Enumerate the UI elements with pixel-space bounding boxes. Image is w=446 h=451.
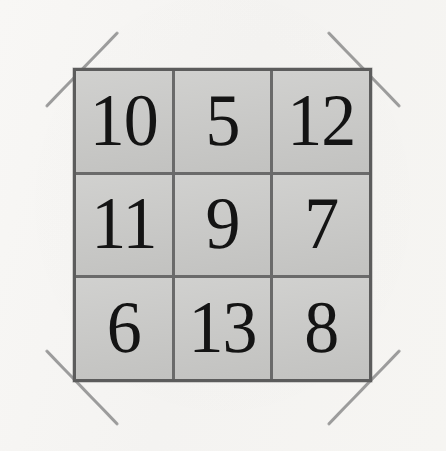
grid-cell-r1c3[interactable]: 12	[273, 71, 369, 172]
grid-cell-label: 10	[90, 85, 158, 159]
grid-cell-r2c3[interactable]: 7	[273, 175, 369, 276]
grid-cell-label: 8	[304, 292, 338, 366]
grid-cell-r2c1[interactable]: 11	[76, 175, 172, 276]
grid-cell-r3c2[interactable]: 13	[175, 278, 271, 379]
grid-cell-r3c1[interactable]: 6	[76, 278, 172, 379]
grid-cell-r2c2[interactable]: 9	[175, 175, 271, 276]
grid-cell-r1c1[interactable]: 10	[76, 71, 172, 172]
grid-cell-label: 6	[107, 292, 141, 366]
grid-cell-r3c3[interactable]: 8	[273, 278, 369, 379]
grid-cell-r1c2[interactable]: 5	[175, 71, 271, 172]
grid-cell-label: 13	[188, 292, 256, 366]
grid-cell-label: 11	[91, 188, 156, 262]
grid-cell-label: 9	[205, 188, 239, 262]
grid-cell-label: 12	[287, 85, 355, 159]
scanned-image-canvas: 10 5 12 11 9 7 6 13 8	[0, 0, 446, 451]
number-grid: 10 5 12 11 9 7 6 13 8	[73, 68, 372, 382]
grid-cell-label: 7	[304, 188, 338, 262]
grid-cell-label: 5	[205, 85, 239, 159]
